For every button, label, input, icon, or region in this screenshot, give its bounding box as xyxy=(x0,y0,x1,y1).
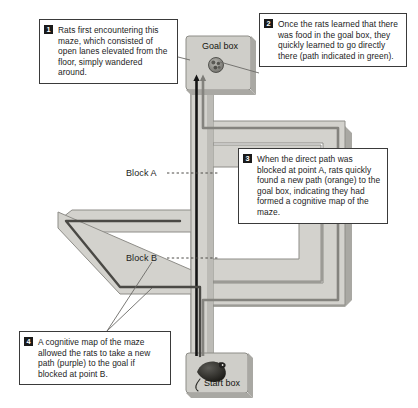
start-box xyxy=(186,353,253,398)
callout-2-number: 2 xyxy=(264,19,273,28)
callout-2-text: Once the rats learned that there was foo… xyxy=(265,19,400,61)
label-block-a: Block A xyxy=(126,168,157,178)
callout-1-text: Rats first encountering this maze, which… xyxy=(45,25,171,78)
callout-3-number: 3 xyxy=(243,154,252,163)
food-pellets-icon xyxy=(209,58,224,73)
callout-4-text: A cognitive map of the maze allowed the … xyxy=(25,337,164,379)
callout-3-text: When the direct path was blocked at poin… xyxy=(244,154,381,218)
callout-4: 4 A cognitive map of the maze allowed th… xyxy=(19,331,171,385)
callout-1: 1 Rats first encountering this maze, whi… xyxy=(39,19,178,84)
callout-1-number: 1 xyxy=(44,25,53,34)
callout-2: 2 Once the rats learned that there was f… xyxy=(259,13,407,67)
label-start-box: Start box xyxy=(192,378,252,388)
label-block-b: Block B xyxy=(126,253,157,263)
callout-4-number: 4 xyxy=(24,337,33,346)
figure-canvas: Block A Block B Goal box Start box 1 Rat… xyxy=(0,0,418,408)
label-goal-box: Goal box xyxy=(190,41,250,51)
callout-3: 3 When the direct path was blocked at po… xyxy=(238,148,388,224)
